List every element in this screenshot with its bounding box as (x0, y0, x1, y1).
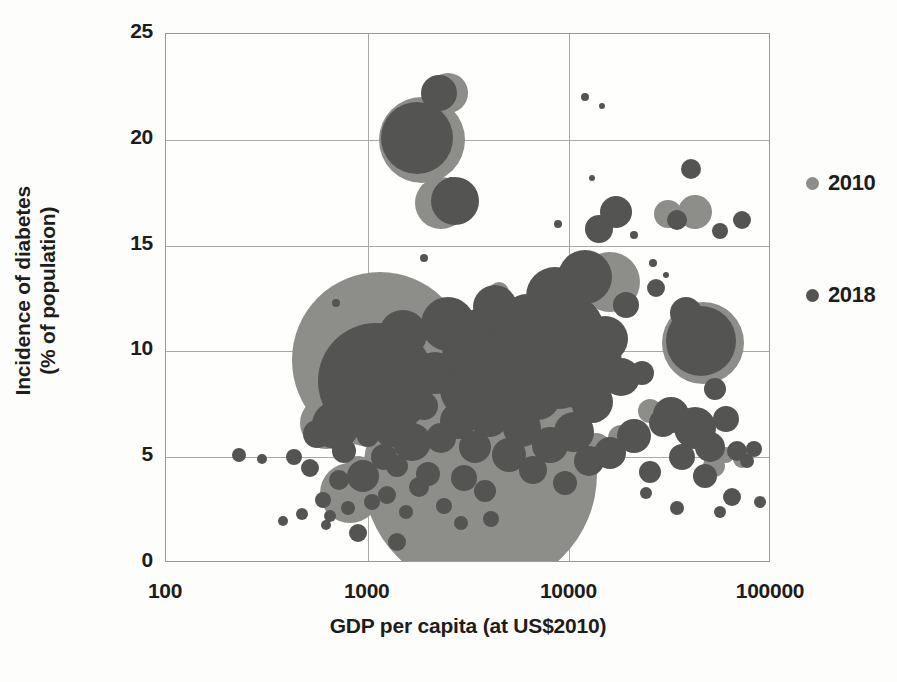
bubble-2018 (454, 516, 468, 530)
legend-label: 2010 (828, 170, 875, 196)
bubble-2018 (617, 419, 651, 453)
bubble-2018 (553, 471, 577, 495)
bubble-2018 (420, 254, 428, 262)
y-tick-label: 15 (107, 231, 153, 255)
bubble-2018 (733, 211, 751, 229)
bubble-2018 (630, 361, 654, 385)
legend-item-2010[interactable]: 2010 (806, 170, 875, 196)
bubble-2018 (321, 520, 331, 530)
x-tick-label: 10000 (508, 579, 628, 603)
legend-marker-icon (806, 177, 819, 190)
bubble-2018 (600, 196, 632, 228)
x-tick-label: 1000 (307, 579, 427, 603)
bubble-chart-figure: Incidence of diabetes (% of population) … (0, 0, 897, 682)
plot-area (165, 33, 770, 562)
legend-item-2018[interactable]: 2018 (806, 282, 875, 308)
y-tick-label: 20 (107, 125, 153, 149)
y-tick-label: 10 (107, 336, 153, 360)
bubble-2018 (649, 259, 657, 267)
bubble-2018 (640, 487, 652, 499)
bubble-2018 (257, 454, 267, 464)
bubble-2018 (582, 316, 628, 362)
bubble-2018 (483, 511, 499, 527)
bubble-2018 (704, 378, 726, 400)
bubble-2018 (349, 524, 367, 542)
bubble-2018 (630, 231, 638, 239)
x-tick-label: 100 (105, 579, 225, 603)
bubble-2018 (693, 464, 717, 488)
bubble-2018 (315, 492, 331, 508)
legend-label: 2018 (828, 282, 875, 308)
bubble-2018 (681, 159, 701, 179)
bubble-2018 (712, 223, 728, 239)
bubble-2018 (670, 501, 684, 515)
y-axis-title: Incidence of diabetes (% of population) (11, 71, 61, 511)
bubble-2018 (474, 480, 496, 502)
bubble-2018 (393, 423, 431, 461)
bubble-2018 (613, 292, 639, 318)
bubble-2018 (381, 102, 453, 174)
bubble-2018 (639, 461, 661, 483)
bubble-2018 (278, 516, 288, 526)
x-tick-label: 100000 (710, 579, 830, 603)
bubble-2018 (746, 441, 762, 457)
bubble-2018 (754, 496, 766, 508)
bubble-2018 (599, 103, 605, 109)
bubble-2018 (714, 506, 726, 518)
y-tick-label: 25 (107, 19, 153, 43)
bubble-2018 (666, 306, 736, 376)
bubble-2018 (581, 93, 589, 101)
x-axis-title: GDP per capita (at US$2010) (165, 614, 771, 638)
gridline-horizontal (166, 246, 769, 247)
bubble-2018 (723, 488, 741, 506)
bubble-2018 (589, 175, 595, 181)
bubble-2018 (296, 508, 308, 520)
legend-marker-icon (806, 289, 819, 302)
bubble-2018 (663, 272, 669, 278)
bubble-2018 (695, 432, 725, 462)
bubble-2018 (332, 439, 356, 463)
bubble-2018 (301, 459, 319, 477)
gridline-horizontal (166, 140, 769, 141)
bubble-2018 (647, 279, 665, 297)
bubble-2018 (232, 448, 246, 462)
bubble-2018 (554, 220, 562, 228)
bubble-2018 (713, 406, 739, 432)
bubble-2018 (286, 449, 302, 465)
bubble-2018 (341, 501, 355, 515)
y-tick-label: 0 (107, 548, 153, 572)
bubble-2018 (421, 75, 457, 111)
bubble-2018 (388, 533, 406, 551)
y-tick-label: 5 (107, 442, 153, 466)
bubble-2018 (667, 210, 687, 230)
